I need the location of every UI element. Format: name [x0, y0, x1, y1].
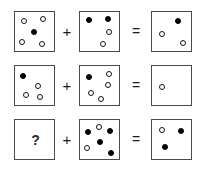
- plus-operator-icon: +: [59, 65, 75, 106]
- open-dot-icon: [37, 94, 43, 100]
- filled-dot-icon: [175, 18, 181, 24]
- result-box: [151, 65, 192, 106]
- plus-operator-icon: +: [59, 11, 75, 52]
- open-dot-icon: [100, 41, 106, 47]
- unknown-marker: ?: [15, 120, 56, 161]
- open-dot-icon: [180, 40, 186, 46]
- operand-box: [79, 65, 120, 106]
- operand-box: [79, 119, 120, 160]
- open-dot-icon: [19, 39, 25, 45]
- open-dot-icon: [84, 145, 90, 151]
- equation-row: +=: [0, 65, 202, 111]
- filled-dot-icon: [97, 139, 103, 145]
- equation-row: ?+=: [0, 119, 202, 165]
- open-dot-icon: [35, 83, 41, 89]
- open-dot-icon: [106, 71, 112, 77]
- filled-dot-icon: [107, 128, 113, 134]
- operand-box: [14, 11, 55, 52]
- result-box: [151, 11, 192, 52]
- open-dot-icon: [159, 84, 165, 90]
- open-dot-icon: [39, 41, 45, 47]
- open-dot-icon: [88, 90, 94, 96]
- filled-dot-icon: [86, 74, 92, 80]
- filled-dot-icon: [20, 73, 26, 79]
- operand-box: [14, 65, 55, 106]
- equation-row: +=: [0, 11, 202, 57]
- open-dot-icon: [98, 96, 104, 102]
- plus-operator-icon: +: [59, 119, 75, 160]
- operand-box: [79, 11, 120, 52]
- open-dot-icon: [105, 82, 111, 88]
- filled-dot-icon: [31, 29, 37, 35]
- open-dot-icon: [159, 127, 165, 133]
- equals-operator-icon: =: [128, 119, 144, 160]
- filled-dot-icon: [178, 128, 184, 134]
- equals-operator-icon: =: [128, 11, 144, 52]
- open-dot-icon: [106, 29, 112, 35]
- open-dot-icon: [23, 92, 29, 98]
- result-box: [151, 119, 192, 160]
- equals-operator-icon: =: [128, 65, 144, 106]
- filled-dot-icon: [108, 150, 114, 156]
- open-dot-icon: [159, 31, 165, 37]
- dot-puzzle-figure: +=+=?+=: [0, 0, 202, 173]
- operand-box[interactable]: ?: [14, 119, 55, 160]
- filled-dot-icon: [85, 129, 91, 135]
- open-dot-icon: [96, 124, 102, 130]
- filled-dot-icon: [86, 17, 92, 23]
- open-dot-icon: [21, 18, 27, 24]
- filled-dot-icon: [162, 144, 168, 150]
- filled-dot-icon: [105, 16, 111, 22]
- open-dot-icon: [40, 16, 46, 22]
